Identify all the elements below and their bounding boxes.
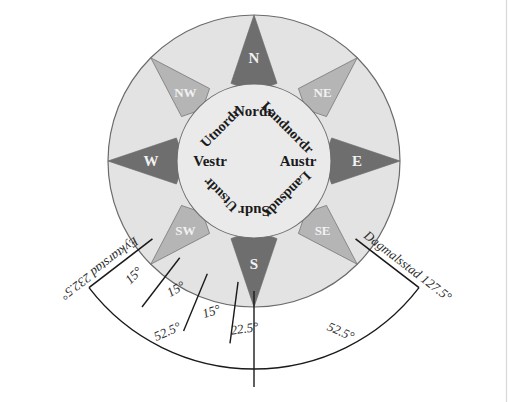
arc-label-left: 52.5° xyxy=(151,319,183,344)
point-label-w: W xyxy=(144,153,159,169)
arc-label-right: 52.5° xyxy=(325,319,357,344)
angle-label-3: 15° xyxy=(200,301,222,321)
norse-name-sudr: Sudr xyxy=(238,203,270,219)
compass-rose-figure: NNEESESSWWNWNordrLandnordrAustrLandsudrS… xyxy=(0,0,512,402)
angle-label-4: 22.5° xyxy=(229,319,259,338)
angle-label-1: 15° xyxy=(122,263,145,286)
point-label-se: SE xyxy=(315,223,331,238)
norse-name-austr: Austr xyxy=(280,153,317,169)
point-label-ne: NE xyxy=(314,85,332,100)
norse-name-vestr: Vestr xyxy=(193,153,227,169)
point-label-n: N xyxy=(249,50,260,66)
dagmalsstad-label: Dagmalsstad 127.5° xyxy=(360,227,454,304)
figure-canvas: NNEESESSWWNWNordrLandnordrAustrLandsudrS… xyxy=(0,0,512,402)
point-label-nw: NW xyxy=(174,85,196,100)
point-label-e: E xyxy=(352,153,362,169)
point-label-s: S xyxy=(250,256,258,272)
point-label-sw: SW xyxy=(175,223,195,238)
